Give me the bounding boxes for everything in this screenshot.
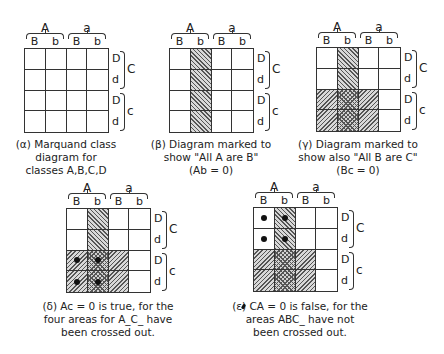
grid-cell [67,230,88,251]
class-grid [169,48,254,133]
hatched-cell [317,90,338,111]
col-sub-label: B [108,196,129,207]
grid-cell [46,70,67,91]
grid-cell [359,69,380,90]
grid-cell [296,229,317,250]
caption-line: (δ) Ac = 0 is true, for the [28,300,188,313]
dot-marker-icon [74,279,80,285]
grid-cell [379,48,400,69]
row-sub-label: d [341,275,348,286]
dot-marker-icon [95,279,101,285]
brace-right-icon [349,210,354,248]
grid-cell [46,111,67,132]
hatched-cell [191,70,212,91]
hatched-cell [317,110,338,131]
grid-cell [109,230,130,251]
hatched-cell [67,271,88,292]
row-group-label: c [356,264,363,276]
hatched-cell [275,229,296,250]
row-sub-label: d [154,234,161,245]
grid-cell [109,209,130,230]
grid-cell [129,271,150,292]
caption-line: (γ) Diagram marked to [278,138,438,151]
col-sub-label: B [66,36,87,47]
row-group-label: C [419,62,427,74]
caption-line: show "All A are B" [131,151,291,164]
col-sub-label: B [358,35,379,46]
grid-cell [87,111,108,132]
grid-cell [67,209,88,230]
grid-cell [316,208,337,229]
col-sub-label: b [337,35,358,46]
dot-marker-icon [261,215,267,221]
caption-line: diagram for [0,151,146,164]
grid-cell [87,91,108,112]
caption-line: (Bc = 0) [278,164,438,177]
caption-line: four areas for A_C_ have [28,313,188,326]
row-group-label: C [272,63,280,75]
dot-marker-icon [282,215,288,221]
caption-line: been crossed out. [220,326,380,339]
caption-delta: (δ) Ac = 0 is true, for thefour areas fo… [28,300,188,339]
col-sub-label: B [295,195,316,206]
hatched-cell [296,250,317,271]
row-sub-label: d [341,233,348,244]
hatched-cell [88,271,109,292]
col-sub-label: b [87,36,108,47]
caption-line: show also "All B are C" [278,151,438,164]
dot-marker-icon [261,236,267,242]
grid-cell [379,90,400,111]
hatched-cell [88,251,109,272]
dot-marker-icon [74,257,80,263]
hatched-cell [191,91,212,112]
row-group-label: c [272,105,279,117]
grid-cell [232,111,253,132]
row-group-label: C [356,222,364,234]
row-sub-label: d [404,115,411,126]
row-group-label: c [419,104,426,116]
brace-right-icon [265,51,270,89]
caption-line: areas ABC_ have not [220,313,380,326]
class-grid [316,47,401,132]
row-sub-label: d [112,74,119,85]
grid-cell [129,251,150,272]
hatched-cell [191,49,212,70]
hatched-cell [191,111,212,132]
hatched-cell [88,230,109,251]
col-sub-label: b [190,36,211,47]
grid-cell [25,111,46,132]
col-sub-label: b [129,196,150,207]
row-group-label: c [127,105,134,117]
grid-cell [316,250,337,271]
grid-cell [232,49,253,70]
grid-cell [25,91,46,112]
hatched-cell [109,251,130,272]
class-grid [66,208,151,293]
grid-cell [67,111,88,132]
col-sub-label: B [24,36,45,47]
row-sub-label: d [154,276,161,287]
grid-cell [254,229,275,250]
brace-right-icon [120,51,125,89]
grid-cell [170,49,191,70]
row-sub-label: d [257,74,264,85]
grid-cell [67,91,88,112]
grid-cell [170,111,191,132]
caption-line: (α) Marquand class [0,138,146,151]
caption-line: classes A,B,C,D [0,164,146,177]
hatched-cell [338,69,359,90]
class-grid [253,207,338,292]
hatched-cell [109,271,130,292]
col-sub-label: b [232,36,253,47]
grid-cell [129,230,150,251]
hatched-cell [359,110,380,131]
grid-cell [87,49,108,70]
dot-marker-icon [282,236,288,242]
row-sub-label: d [112,116,119,127]
col-sub-label: b [379,35,400,46]
col-sub-label: B [253,195,274,206]
grid-cell [25,70,46,91]
row-group-label: C [169,223,177,235]
grid-cell [232,91,253,112]
hatched-cell [296,270,317,291]
